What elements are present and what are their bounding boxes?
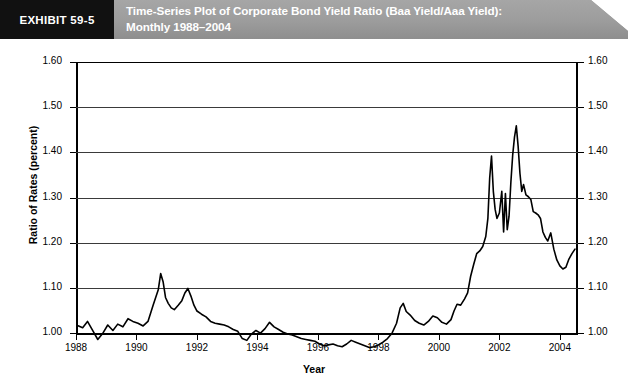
exhibit-title-line-2: Monthly 1988–2004 <box>126 19 596 35</box>
y-axis-tick-label-right: 1.10 <box>588 281 628 292</box>
x-tick <box>136 333 137 340</box>
x-tick <box>439 333 440 340</box>
y-axis-tick-label-right: 1.50 <box>588 100 628 111</box>
y-tick-left <box>70 107 76 108</box>
x-tick <box>378 333 379 340</box>
x-tick <box>560 333 561 340</box>
y-axis-tick-label-right: 1.40 <box>588 145 628 156</box>
y-tick-left <box>70 62 76 63</box>
x-tick <box>499 333 500 340</box>
x-tick <box>197 333 198 340</box>
x-axis-tick-label: 1994 <box>234 342 280 353</box>
x-axis-tick-label: 1988 <box>53 342 99 353</box>
y-axis-tick-label-right: 1.30 <box>588 191 628 202</box>
gridline <box>76 243 578 244</box>
plot-top-border <box>76 62 578 63</box>
gridline <box>76 198 578 199</box>
y-axis-tick-label-right: 1.00 <box>588 326 628 337</box>
y-tick-right <box>578 243 584 244</box>
y-axis-tick-label-left: 1.60 <box>22 55 62 66</box>
y-tick-right <box>578 198 584 199</box>
x-axis-tick-label: 1992 <box>174 342 220 353</box>
y-axis-tick-label-left: 1.00 <box>22 326 62 337</box>
x-tick <box>257 333 258 340</box>
chart-area: 1.001.101.201.301.401.501.60 1.001.101.2… <box>0 39 628 379</box>
x-tick <box>318 333 319 340</box>
y-axis-title: Ratio of Rates (percent) <box>27 85 39 285</box>
y-tick-right <box>578 288 584 289</box>
y-tick-left <box>70 152 76 153</box>
y-tick-right <box>578 107 584 108</box>
y-tick-left <box>70 243 76 244</box>
y-tick-left <box>70 198 76 199</box>
exhibit-number-label: EXHIBIT 59-5 <box>0 0 114 39</box>
exhibit-header: EXHIBIT 59-5 Time-Series Plot of Corpora… <box>0 0 628 39</box>
x-axis-tick-label: 1996 <box>295 342 341 353</box>
x-axis-tick-label: 2002 <box>476 342 522 353</box>
exhibit-title-line-1: Time-Series Plot of Corporate Bond Yield… <box>126 3 596 19</box>
y-axis-tick-label-right: 1.60 <box>588 55 628 66</box>
gridline <box>76 288 578 289</box>
x-axis-title: Year <box>0 363 628 375</box>
x-axis-tick-label: 1998 <box>355 342 401 353</box>
exhibit-figure: EXHIBIT 59-5 Time-Series Plot of Corpora… <box>0 0 628 379</box>
y-tick-right <box>578 333 584 334</box>
x-tick <box>76 333 77 340</box>
exhibit-title: Time-Series Plot of Corporate Bond Yield… <box>126 3 596 34</box>
y-tick-right <box>578 62 584 63</box>
y-tick-right <box>578 152 584 153</box>
x-axis-tick-label: 1990 <box>113 342 159 353</box>
gridline <box>76 107 578 108</box>
gridline <box>76 152 578 153</box>
x-axis-tick-label: 2004 <box>537 342 583 353</box>
y-axis-tick-label-right: 1.20 <box>588 236 628 247</box>
plot-bottom-axis <box>76 333 578 335</box>
y-tick-left <box>70 288 76 289</box>
x-axis-tick-label: 2000 <box>416 342 462 353</box>
